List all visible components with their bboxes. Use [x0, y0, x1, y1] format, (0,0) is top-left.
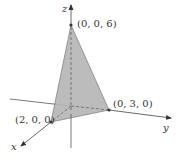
coordinate-diagram: z y x (0, 0, 6) (0, 3, 0) (2, 0, 0) — [0, 0, 178, 162]
x-axis-label: x — [11, 141, 17, 152]
vertex-point-z — [69, 23, 72, 26]
diagram-canvas: z y x (0, 0, 6) (0, 3, 0) (2, 0, 0) — [0, 0, 178, 162]
vertex-label-z: (0, 0, 6) — [77, 18, 117, 29]
vertex-label-y: (0, 3, 0) — [113, 98, 153, 109]
shaded-triangle-plane — [51, 25, 109, 122]
vertex-point-y — [107, 108, 110, 111]
vertex-label-x: (2, 0, 0) — [15, 114, 55, 125]
x-axis — [21, 122, 51, 146]
z-axis-label: z — [61, 3, 68, 14]
y-axis — [109, 110, 171, 118]
y-axis-label: y — [162, 122, 169, 133]
